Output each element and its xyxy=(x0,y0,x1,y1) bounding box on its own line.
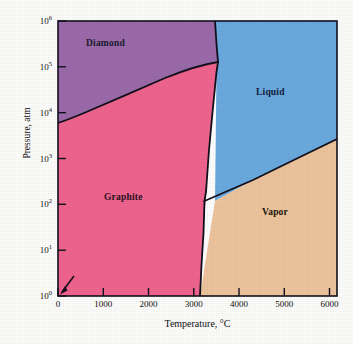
ytick-exp-1e6: 6 xyxy=(49,14,52,21)
ytick-label-1e5: 105 xyxy=(22,61,52,72)
ytick-exp-1e5: 5 xyxy=(49,60,52,67)
ytick-label-1e1: 101 xyxy=(22,244,52,255)
xtick-label-3000: 3000 xyxy=(176,300,212,309)
ytick-exp-1e4: 4 xyxy=(49,106,52,113)
region-label-graphite: Graphite xyxy=(104,192,143,202)
ytick-exp-1e2: 2 xyxy=(49,197,52,204)
ytick-exp-1e3: 3 xyxy=(49,152,52,159)
phase-diagram-plot xyxy=(0,0,353,344)
xtick-label-2000: 2000 xyxy=(131,300,167,309)
phase-diagram-figure: 106 105 104 103 102 101 100 0 1000 2000 … xyxy=(0,0,353,344)
xtick-label-4000: 4000 xyxy=(221,300,257,309)
xtick-label-0: 0 xyxy=(43,300,73,309)
xtick-label-1000: 1000 xyxy=(85,300,121,309)
x-axis-title: Temperature, °C xyxy=(58,318,337,329)
region-label-liquid: Liquid xyxy=(256,87,285,97)
ytick-exp-1e1: 1 xyxy=(49,243,52,250)
xtick-label-5000: 5000 xyxy=(266,300,302,309)
y-axis-title: Pressure, atm xyxy=(22,88,32,178)
xtick-label-6000: 6000 xyxy=(312,300,348,309)
ytick-exp-1e0: 0 xyxy=(49,289,52,296)
region-label-diamond: Diamond xyxy=(86,38,125,48)
ytick-label-1e6: 106 xyxy=(22,15,52,26)
region-label-vapor: Vapor xyxy=(262,207,288,217)
ytick-label-1e2: 102 xyxy=(22,198,52,209)
